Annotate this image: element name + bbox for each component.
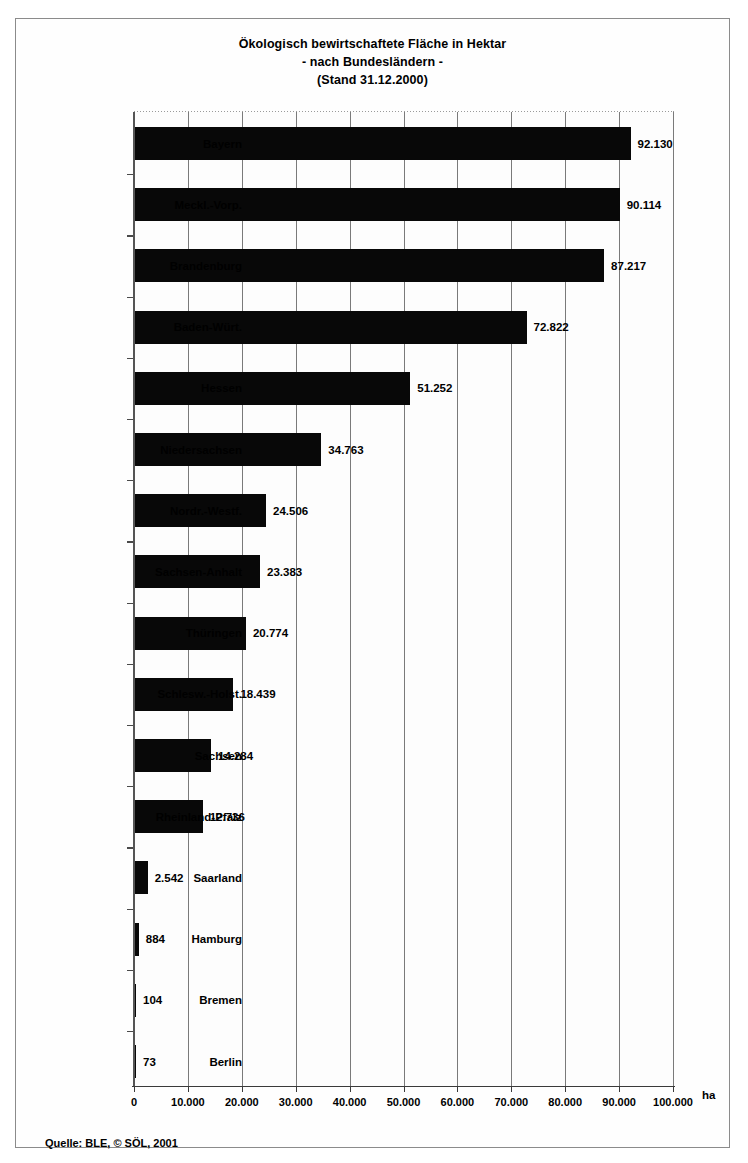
category-label: Hessen (201, 382, 242, 394)
category-label: Schlesw.-Holst. (157, 688, 242, 700)
x-axis-tick-label: 60.000 (441, 1096, 475, 1108)
chart-subtitle-date: (Stand 31.12.2000) (16, 71, 729, 89)
category-label: Saarland (193, 872, 242, 884)
x-axis-tick (457, 1086, 458, 1092)
x-axis-tick-label: 90.000 (602, 1096, 636, 1108)
axis-unit-label: ha (702, 1089, 715, 1101)
x-axis-tick (242, 1086, 243, 1092)
bar-value-label: 51.252 (417, 382, 452, 394)
bar-value-label: 92.130 (638, 138, 673, 150)
category-label: Baden-Würt. (174, 321, 242, 333)
bar-value-label: 24.506 (273, 505, 308, 517)
category-label: Bremen (199, 994, 242, 1006)
category-label: Niedersachsen (160, 444, 242, 456)
bar-value-label: 20.774 (253, 627, 288, 639)
x-axis-tick-label: 20.000 (225, 1096, 259, 1108)
bar-value-label: 34.763 (328, 444, 363, 456)
category-label: Berlin (209, 1056, 242, 1068)
x-axis-tick (619, 1086, 620, 1092)
category-label: Meckl.-Vorp. (174, 199, 242, 211)
x-axis-tick (565, 1086, 566, 1092)
bar-value-label: 87.217 (611, 260, 646, 272)
x-axis-tick (511, 1086, 512, 1092)
bar-value-label: 90.114 (627, 199, 662, 211)
x-axis-tick-label: 10.000 (171, 1096, 205, 1108)
x-axis-tick-label: 100.000 (653, 1096, 693, 1108)
category-label: Thüringen (186, 627, 242, 639)
category-label: Nordr.-Westf. (170, 505, 242, 517)
gridline (673, 112, 674, 1086)
x-axis-tick-label: 0 (131, 1096, 137, 1108)
x-axis-tick-label: 50.000 (387, 1096, 421, 1108)
bar-value-label: 23.383 (267, 566, 302, 578)
bar-value-label: 72.822 (534, 321, 569, 333)
source-note: Quelle: BLE, © SÖL, 2001 (45, 1137, 178, 1149)
category-label: Rheinland-Pfalz (156, 811, 242, 823)
x-axis-tick-label: 40.000 (333, 1096, 367, 1108)
category-label: Bayern (203, 138, 242, 150)
x-axis-tick (188, 1086, 189, 1092)
x-axis-tick (134, 1086, 135, 1092)
x-axis-tick-label: 70.000 (494, 1096, 528, 1108)
x-axis-tick (350, 1086, 351, 1092)
y-axis-line (133, 112, 135, 1086)
chart-title-block: Ökologisch bewirtschaftete Fläche in Hek… (16, 35, 729, 89)
category-label: Brandenburg (170, 260, 242, 272)
x-axis-tick (296, 1086, 297, 1092)
gridline (619, 112, 620, 1086)
category-label: Sachsen (195, 750, 242, 762)
chart-title: Ökologisch bewirtschaftete Fläche in Hek… (16, 35, 729, 53)
x-axis-tick-label: 30.000 (279, 1096, 313, 1108)
plot-area: 92.13090.11487.21772.82251.25234.76324.5… (134, 112, 673, 1086)
category-axis-labels: BayernMeckl.-Vorp.BrandenburgBaden-Würt.… (132, 112, 252, 1086)
chart-subtitle: - nach Bundesländern - (16, 53, 729, 71)
x-axis-tick-label: 80.000 (548, 1096, 582, 1108)
x-axis-tick (404, 1086, 405, 1092)
figure-frame: Ökologisch bewirtschaftete Fläche in Hek… (15, 18, 730, 1148)
category-label: Hamburg (192, 933, 242, 945)
category-label: Sachsen-Anhalt (155, 566, 242, 578)
x-axis-tick (673, 1086, 674, 1092)
